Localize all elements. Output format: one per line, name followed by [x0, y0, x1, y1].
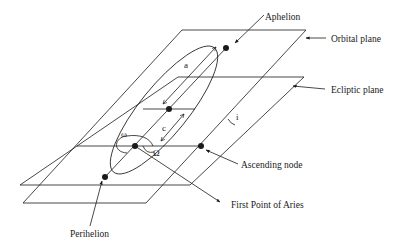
inclination-symbol: i [236, 112, 239, 122]
longitude-of-ascending-node-symbol: Ω [153, 148, 160, 158]
ascending-node-point [198, 143, 204, 149]
semi-major-axis-arrow [163, 47, 216, 104]
perihelion-point [102, 174, 108, 180]
semi-major-axis-symbol: a [184, 60, 188, 70]
aphelion-label: Aphelion [265, 12, 301, 22]
orbital-plane [23, 30, 306, 203]
orbital-plane-label: Orbital plane [331, 34, 381, 44]
aphelion-point [223, 45, 229, 51]
ecliptic-plane-leader [293, 86, 325, 89]
ascending-node-leader [206, 150, 238, 164]
ascending-node-label: Ascending node [241, 160, 302, 170]
major-axis [105, 48, 226, 177]
focal-distance-symbol: c [162, 123, 166, 133]
aphelion-leader [235, 15, 264, 43]
inclination-arc [228, 119, 235, 125]
aries-direction-line [135, 146, 220, 202]
focus-point [132, 143, 138, 149]
center-point [166, 106, 172, 112]
argument-of-periapsis-symbol: ω [121, 129, 127, 139]
perihelion-leader [90, 181, 102, 226]
first-point-of-aries-label: First Point of Aries [231, 200, 304, 210]
orbital-elements-diagram: Aphelion Orbital plane Ecliptic plane As… [0, 0, 409, 244]
perihelion-label: Perihelion [70, 229, 109, 239]
ecliptic-plane-label: Ecliptic plane [331, 85, 384, 95]
